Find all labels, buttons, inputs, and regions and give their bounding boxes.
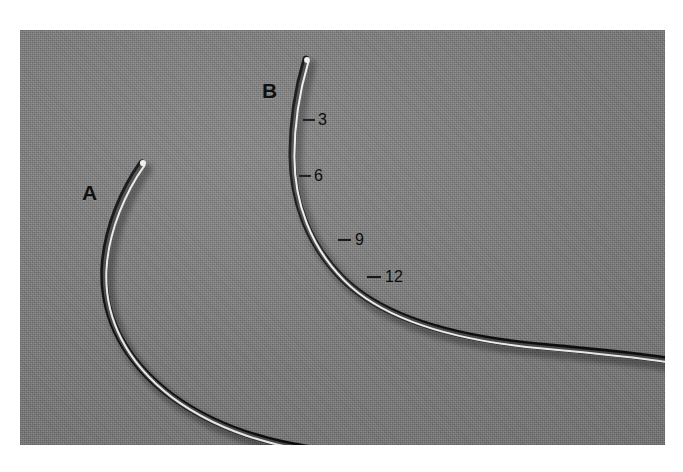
tick-label-12: 12 xyxy=(385,269,403,285)
specimen-label-a: A xyxy=(82,182,97,203)
tick-label-9: 9 xyxy=(355,232,364,248)
tick-label-6: 6 xyxy=(314,168,323,184)
wire-a xyxy=(104,160,365,445)
figure-root: A B 3 6 9 12 xyxy=(0,0,683,472)
specimen-label-b: B xyxy=(262,80,277,101)
wire-illustration xyxy=(20,30,665,445)
tick-label-3: 3 xyxy=(318,112,327,128)
photograph: A B 3 6 9 12 xyxy=(20,30,665,445)
scale-tick-marks xyxy=(299,120,381,277)
wire-b xyxy=(292,57,665,366)
